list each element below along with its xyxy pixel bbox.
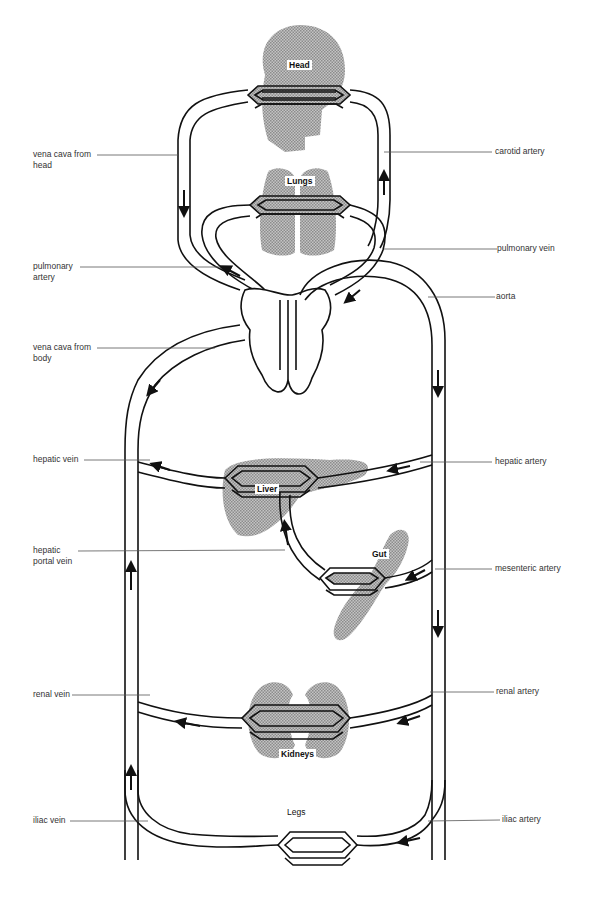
organ-label-lungs: Lungs xyxy=(285,176,315,186)
label-pulmonary-artery: pulmonary artery xyxy=(33,261,73,283)
label-mesenteric-artery: mesenteric artery xyxy=(495,563,561,574)
label-iliac-vein: iliac vein xyxy=(33,815,66,826)
organ-label-liver: Liver xyxy=(255,484,279,494)
label-iliac-artery: iliac artery xyxy=(502,814,541,825)
organ-label-kidneys: Kidneys xyxy=(279,749,316,759)
label-pulmonary-vein: pulmonary vein xyxy=(497,243,555,254)
label-hepatic-vein: hepatic vein xyxy=(33,454,78,465)
lungs-capillary-bed xyxy=(250,196,350,218)
label-aorta: aorta xyxy=(496,291,515,302)
head-capillary-bed xyxy=(248,86,350,108)
label-vena-cava-from-head: vena cava from head xyxy=(33,149,91,171)
label-renal-vein: renal vein xyxy=(33,689,70,700)
heart xyxy=(241,289,331,394)
legs-capillary-bed xyxy=(278,832,357,865)
label-vena-cava-from-body: vena cava from body xyxy=(33,342,91,364)
label-carotid-artery: carotid artery xyxy=(495,146,545,157)
organ-label-legs: Legs xyxy=(285,807,307,817)
label-hepatic-portal-vein: hepatic portal vein xyxy=(33,545,72,567)
label-renal-artery: renal artery xyxy=(496,686,539,697)
label-hepatic-artery: hepatic artery xyxy=(495,456,547,467)
circulatory-diagram xyxy=(0,0,598,908)
organ-label-head: Head xyxy=(287,60,312,70)
organ-label-gut: Gut xyxy=(370,549,389,559)
